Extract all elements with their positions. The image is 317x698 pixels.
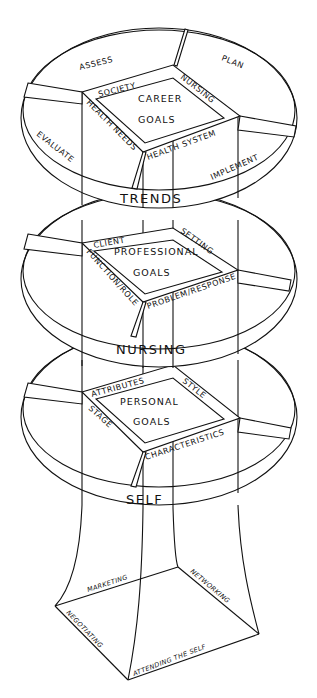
base-label-marketing: MARKETING [86, 573, 129, 594]
center-label-professional: PROFESSIONAL [114, 246, 199, 257]
ring-label-trends: TRENDS [119, 191, 182, 206]
tier-career: ASSESS PLAN EVALUATE IMPLEMENT SOCIETY N… [21, 28, 297, 208]
center-label-goals: GOALS [133, 416, 171, 427]
ring-label-nursing: NURSING [116, 342, 187, 357]
career-development-model-diagram: MARKETING NETWORKING NEGOTIATING ATTENDI… [0, 0, 317, 698]
center-label-career: CAREER [138, 93, 182, 104]
base-label-negotiating: NEGOTIATING [65, 609, 105, 650]
base-label-networking: NETWORKING [189, 567, 232, 605]
center-label-goals: GOALS [133, 267, 171, 278]
center-label-personal: PERSONAL [120, 396, 179, 407]
center-label-goals: GOALS [138, 114, 176, 125]
ring-label-self: SELF [126, 492, 163, 507]
base-pedestal: MARKETING NETWORKING NEGOTIATING ATTENDI… [55, 505, 259, 680]
tier-professional: CLIENT SETTING FUNCTION/ROLE PROBLEM/RES… [21, 191, 297, 368]
base-label-attending-the-self: ATTENDING THE SELF [131, 643, 207, 679]
